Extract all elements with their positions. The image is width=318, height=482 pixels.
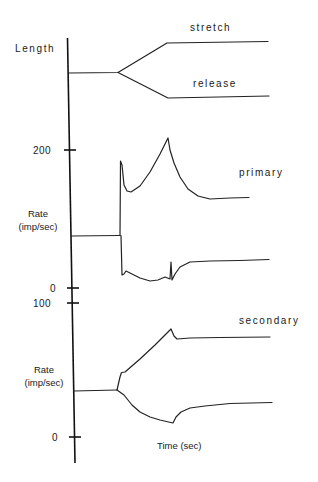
primary-panel: 200 0 Rate (imp/sec) primary [18, 138, 283, 294]
secondary-rate-unit-label: (imp/sec) [24, 377, 63, 388]
stretch-label: stretch [190, 22, 231, 33]
tick-label-100: 100 [33, 298, 51, 309]
tick-label-0-primary: 0 [50, 283, 56, 294]
time-axis-label: Time (sec) [157, 440, 202, 451]
vertical-axis [68, 38, 76, 463]
secondary-label: secondary [239, 315, 300, 326]
primary-label: primary [239, 167, 284, 178]
primary-stretch-trace [120, 138, 249, 236]
length-panel: Length stretch release [15, 22, 269, 98]
muscle-spindle-response-diagram: Length stretch release 200 0 Rate (imp/s… [0, 0, 318, 482]
primary-baseline-trace [71, 236, 120, 237]
length-axis-label: Length [15, 43, 55, 54]
primary-rate-unit-label: (imp/sec) [18, 221, 57, 232]
secondary-rate-label: Rate [34, 364, 54, 375]
primary-release-trace [121, 236, 269, 282]
tick-label-200: 200 [33, 145, 51, 156]
secondary-stretch-trace [117, 329, 270, 390]
primary-rate-label: Rate [28, 208, 48, 219]
tick-label-0-secondary: 0 [52, 432, 58, 443]
secondary-release-trace [117, 390, 272, 423]
length-stretch-trace [69, 42, 269, 74]
secondary-panel: 100 0 Rate (imp/sec) secondary [24, 298, 299, 443]
release-label: release [193, 78, 237, 89]
secondary-baseline-trace [74, 390, 117, 391]
